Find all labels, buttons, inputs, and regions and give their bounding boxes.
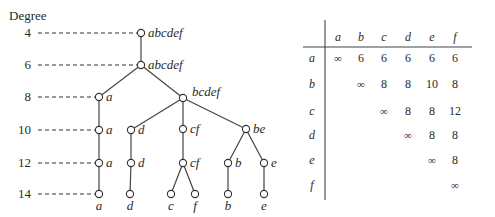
matrix-cell: 8 bbox=[452, 77, 458, 91]
tree-node-label: e bbox=[271, 155, 277, 170]
tree-node-circle bbox=[260, 190, 267, 197]
tree-node-circle bbox=[95, 93, 102, 100]
matrix-row-header: b bbox=[309, 77, 315, 91]
tree-node-circle bbox=[179, 125, 186, 132]
tree-node-label: f bbox=[193, 198, 199, 213]
degree-axis-label: Degree bbox=[9, 8, 47, 23]
tree-node-circle bbox=[95, 190, 102, 197]
tree-node-circle bbox=[127, 159, 134, 166]
tree-node-label: e bbox=[261, 198, 267, 213]
tree-node-label: d bbox=[138, 155, 145, 170]
tree-node-label: a bbox=[106, 155, 113, 170]
tree-node-circle bbox=[127, 126, 134, 133]
tree-node-circle bbox=[224, 159, 231, 166]
tree-node-label: cf bbox=[190, 155, 202, 170]
matrix-cell: 6 bbox=[405, 51, 411, 65]
tree-node-circle bbox=[224, 190, 231, 197]
dendrogram-and-matrix-figure: Degree 468101214 abcdefabcdefabcdefadcfb… bbox=[0, 0, 495, 217]
matrix-cell: 8 bbox=[429, 104, 435, 118]
matrix-cell: ∞ bbox=[334, 52, 342, 64]
matrix-cell: 6 bbox=[452, 51, 458, 65]
tree-node-circle bbox=[95, 159, 102, 166]
tree-node-label: abcdef bbox=[148, 57, 185, 72]
degree-levels: 468101214 bbox=[18, 25, 137, 201]
tree-node-circle bbox=[260, 159, 267, 166]
matrix-cell: 8 bbox=[381, 77, 387, 91]
matrix-row-header: c bbox=[309, 104, 315, 118]
matrix-column-header: b bbox=[358, 30, 364, 44]
tree-node-circle bbox=[191, 190, 198, 197]
matrix-column-header: c bbox=[381, 30, 387, 44]
matrix-cell: 12 bbox=[449, 104, 461, 118]
matrix-cell: ∞ bbox=[380, 105, 388, 117]
tree-node-label: be bbox=[253, 121, 266, 136]
tree-node-label: abcdef bbox=[148, 25, 185, 40]
matrix-row-header: f bbox=[310, 178, 315, 192]
matrix-column-header: d bbox=[405, 30, 412, 44]
tree-node-label: a bbox=[96, 198, 103, 213]
tree-node-circle bbox=[167, 190, 174, 197]
tree-node-label: b bbox=[235, 155, 242, 170]
matrix-cell: 6 bbox=[429, 51, 435, 65]
tree-node-label: bcdef bbox=[192, 84, 223, 99]
matrix-column-header: a bbox=[335, 30, 341, 44]
matrix-cell: 6 bbox=[381, 51, 387, 65]
tree-node-circle bbox=[137, 61, 144, 68]
matrix-cell: 10 bbox=[426, 77, 438, 91]
matrix-cell: 8 bbox=[405, 77, 411, 91]
tree-node-circle bbox=[95, 126, 102, 133]
tree-node-circle bbox=[242, 125, 249, 132]
tree-node-label: d bbox=[127, 198, 134, 213]
matrix-cell: 8 bbox=[429, 128, 435, 142]
tree-edge bbox=[171, 163, 183, 194]
degree-matrix: abcdefa∞66666b∞88108c∞8812d∞88e∞8f∞ bbox=[303, 20, 472, 200]
degree-tick-label: 14 bbox=[18, 186, 32, 201]
tree-node-label: a bbox=[106, 89, 113, 104]
degree-tick-label: 4 bbox=[25, 25, 32, 40]
tree-node-circle bbox=[137, 29, 144, 36]
degree-tick-label: 6 bbox=[25, 57, 32, 72]
matrix-cell: ∞ bbox=[451, 179, 459, 191]
tree-node-circle bbox=[179, 94, 186, 101]
matrix-row-header: a bbox=[309, 51, 315, 65]
matrix-row-header: e bbox=[309, 153, 315, 167]
matrix-cell: 8 bbox=[452, 153, 458, 167]
matrix-column-header: e bbox=[429, 30, 435, 44]
tree-node-label: a bbox=[106, 122, 113, 137]
tree-node-label: b bbox=[225, 198, 232, 213]
matrix-cell: ∞ bbox=[404, 129, 412, 141]
matrix-column-header: f bbox=[453, 30, 458, 44]
matrix-cell: 8 bbox=[405, 104, 411, 118]
matrix-cell: 6 bbox=[358, 51, 364, 65]
matrix-row-header: d bbox=[309, 128, 316, 142]
tree-node-circle bbox=[179, 159, 186, 166]
tree-node-label: d bbox=[138, 122, 145, 137]
tree-node-circle bbox=[126, 190, 133, 197]
tree-node-label: c bbox=[168, 198, 174, 213]
tree-nodes: abcdefabcdefabcdefadcfbeadcfbeadcfbe bbox=[95, 25, 277, 213]
matrix-cell: ∞ bbox=[428, 154, 436, 166]
matrix-cell: ∞ bbox=[357, 78, 365, 90]
degree-tick-label: 8 bbox=[25, 89, 32, 104]
degree-tick-label: 10 bbox=[18, 122, 31, 137]
tree-edge bbox=[130, 163, 131, 194]
degree-tick-label: 12 bbox=[18, 155, 31, 170]
tree-node-label: cf bbox=[190, 121, 202, 136]
matrix-cell: 8 bbox=[452, 128, 458, 142]
